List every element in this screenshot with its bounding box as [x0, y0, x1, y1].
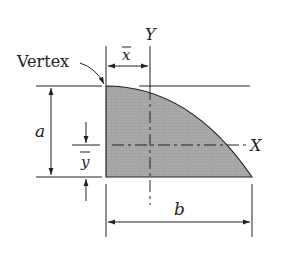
label-ybar: y: [80, 153, 90, 171]
label-xbar: x: [122, 46, 131, 64]
label-a: a: [35, 121, 45, 141]
label-b: b: [174, 199, 185, 219]
diagram-canvas: a Y X x y b Vertex: [0, 0, 281, 260]
label-y-axis: Y: [145, 25, 157, 44]
vertex-leader-arrow: [80, 63, 104, 84]
parabolic-area: [106, 86, 252, 177]
label-x-axis: X: [248, 136, 262, 155]
label-vertex: Vertex: [16, 52, 69, 71]
